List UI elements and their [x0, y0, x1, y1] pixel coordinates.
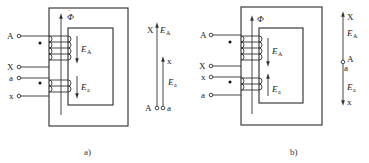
svg-text:A: A [278, 51, 283, 57]
phasor-diagram-b: X E A A a E a x [341, 12, 358, 107]
svg-text:A: A [166, 30, 171, 36]
svg-text:a: a [87, 87, 90, 93]
panel-a: Φ · A X a x [7, 8, 177, 157]
caption-a: a) [84, 147, 91, 157]
svg-text:a: a [201, 90, 205, 100]
polarity-dot-secondary [229, 81, 232, 84]
svg-text:E: E [271, 46, 278, 56]
panel-b: Φ A X x a E [199, 7, 358, 157]
terminal-label-A: A [7, 31, 14, 41]
transformer-polarity-diagram: Φ · A X a x [0, 0, 369, 163]
terminal-label-a: a [9, 73, 13, 83]
polarity-dot-primary [229, 41, 232, 44]
core-window [68, 28, 113, 105]
svg-text:A: A [347, 54, 354, 64]
svg-text:x: x [201, 72, 206, 82]
svg-text:X: X [199, 61, 206, 71]
svg-text:a: a [167, 103, 171, 113]
svg-text:a: a [344, 63, 348, 73]
svg-text:·: · [68, 8, 70, 14]
svg-text:A: A [87, 49, 92, 55]
svg-text:E: E [159, 25, 166, 35]
core-outer [241, 7, 322, 125]
svg-text:A: A [353, 33, 358, 39]
svg-text:X: X [147, 25, 154, 35]
svg-text:a: a [353, 87, 356, 93]
polarity-dot-primary [39, 42, 42, 45]
terminal-A [209, 33, 213, 37]
caption-b: b) [290, 147, 298, 157]
svg-text:A: A [200, 30, 207, 40]
svg-text:E: E [167, 77, 174, 87]
svg-text:E: E [80, 82, 87, 92]
svg-text:a: a [174, 82, 177, 88]
svg-text:x: x [347, 97, 352, 107]
svg-text:X: X [347, 12, 354, 22]
terminal-X [17, 65, 21, 69]
terminal-a [209, 93, 213, 97]
polarity-dot-secondary [39, 82, 42, 85]
svg-text:E: E [80, 44, 87, 54]
terminal-A [17, 34, 21, 38]
terminal-x [17, 94, 21, 98]
svg-text:x: x [167, 56, 172, 66]
svg-text:E: E [346, 82, 353, 92]
terminal-label-x: x [9, 91, 14, 101]
svg-text:a: a [278, 89, 281, 95]
svg-text:E: E [271, 84, 278, 94]
core-window [259, 28, 303, 103]
svg-text:E: E [346, 28, 353, 38]
terminal-X [209, 64, 213, 68]
phasor-diagram-a: X E A x E a A a [145, 25, 177, 113]
svg-text:A: A [145, 103, 152, 113]
terminal-x [209, 75, 213, 79]
terminal-a [17, 76, 21, 80]
terminal-label-X: X [7, 62, 14, 72]
flux-label: Φ [257, 14, 264, 24]
